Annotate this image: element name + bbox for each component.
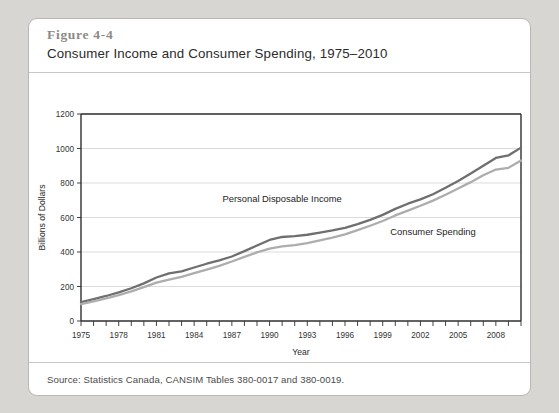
series-label: Consumer Spending [390, 226, 475, 237]
x-tick-label: 1987 [223, 331, 242, 340]
x-tick-label: 1993 [298, 331, 317, 340]
y-axis-tick-labels: 020040060080010001200 [56, 110, 75, 326]
footer-divider [29, 362, 530, 363]
figure-card: Figure 4-4 Consumer Income and Consumer … [28, 18, 531, 396]
line-chart: 020040060080010001200 197519781981198419… [29, 73, 531, 364]
x-tick-label: 1990 [260, 331, 279, 340]
x-axis-title: Year [292, 347, 310, 357]
chart-plot-area: 020040060080010001200 197519781981198419… [29, 73, 531, 364]
x-tick-label: 2002 [411, 331, 430, 340]
x-tick-label: 2005 [449, 331, 468, 340]
y-tick-label: 200 [60, 283, 74, 292]
y-tick-label: 800 [60, 179, 74, 188]
x-tick-label: 1981 [147, 331, 166, 340]
y-axis-title: Billions of Dollars [37, 185, 47, 251]
x-tick-label: 1975 [72, 331, 91, 340]
figure-header: Figure 4-4 Consumer Income and Consumer … [29, 19, 530, 72]
x-tick-label: 2008 [487, 331, 506, 340]
figure-number: Figure 4-4 [47, 27, 113, 43]
x-tick-label: 1978 [110, 331, 129, 340]
gridlines [81, 114, 521, 321]
series-label: Personal Disposable Income [222, 193, 341, 204]
x-axis-tick-labels: 1975197819811984198719901993199619992002… [72, 331, 506, 340]
y-tick-label: 400 [60, 248, 74, 257]
x-tick-label: 1996 [336, 331, 355, 340]
y-tick-label: 600 [60, 214, 74, 223]
x-axis-ticks [81, 321, 521, 326]
x-tick-label: 1999 [374, 331, 393, 340]
figure-title: Consumer Income and Consumer Spending, 1… [47, 46, 388, 61]
source-note: Source: Statistics Canada, CANSIM Tables… [47, 374, 344, 385]
y-tick-label: 1000 [56, 145, 75, 154]
y-tick-label: 1200 [56, 110, 75, 119]
y-tick-label: 0 [69, 317, 74, 326]
x-tick-label: 1984 [185, 331, 204, 340]
